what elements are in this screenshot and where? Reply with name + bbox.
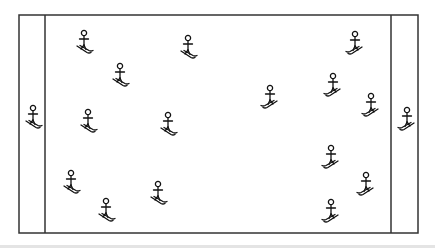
skier-icon <box>398 107 414 130</box>
skiers-group <box>26 30 414 222</box>
skier-icon <box>362 93 378 116</box>
skier-icon <box>322 199 338 222</box>
skier-icon <box>261 85 277 108</box>
skier-icon <box>113 63 129 86</box>
skier-icon <box>357 172 373 195</box>
skier-icon <box>151 181 167 204</box>
skier-icon <box>26 105 42 128</box>
skier-icon <box>322 145 338 168</box>
skier-icon <box>346 31 362 54</box>
skier-icon <box>64 170 80 193</box>
skier-icon <box>81 109 97 132</box>
skier-icon <box>181 35 197 58</box>
skier-icon <box>99 198 115 221</box>
skier-icon <box>77 30 93 53</box>
skier-icon <box>324 73 340 96</box>
field-diagram <box>0 0 435 248</box>
skier-icon <box>161 112 177 135</box>
